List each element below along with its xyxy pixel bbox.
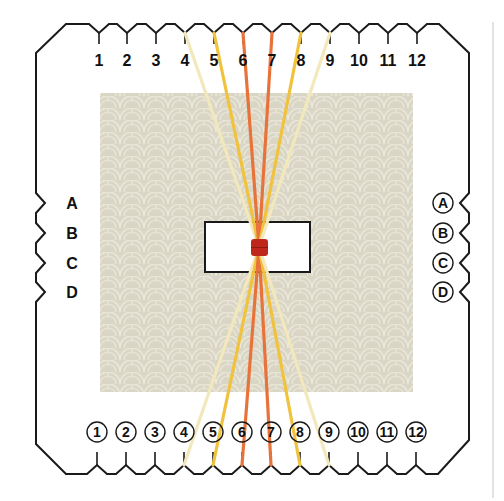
top-slot-label-7: 7	[268, 52, 277, 69]
bottom-slot-label-5: 5	[209, 424, 217, 440]
bottom-slot-label-3: 3	[151, 424, 159, 440]
right-slot-label-B: B	[438, 225, 448, 241]
bottom-slot-label-4: 4	[180, 424, 188, 440]
top-slot-label-4: 4	[181, 52, 190, 69]
right-slot-label-A: A	[438, 195, 448, 211]
top-slot-label-12: 12	[408, 52, 426, 69]
right-slot-label-C: C	[438, 255, 448, 271]
left-slot-label-D: D	[66, 284, 78, 301]
bottom-slot-label-1: 1	[93, 424, 101, 440]
right-slot-label-D: D	[438, 284, 448, 300]
center-knot	[251, 239, 268, 256]
top-slot-label-11: 11	[380, 52, 397, 69]
left-slot-label-A: A	[66, 195, 78, 212]
top-slot-label-5: 5	[210, 52, 219, 69]
left-slot-label-B: B	[66, 225, 78, 242]
bottom-slot-label-11: 11	[380, 424, 395, 440]
bottom-slot-label-7: 7	[267, 424, 275, 440]
bottom-slot-label-8: 8	[296, 424, 304, 440]
top-slot-label-3: 3	[152, 52, 161, 69]
bottom-slot-label-10: 10	[350, 424, 366, 440]
top-slot-label-1: 1	[95, 52, 104, 69]
bottom-slot-label-12: 12	[408, 424, 424, 440]
bottom-slot-label-6: 6	[238, 424, 246, 440]
left-slot-label-C: C	[66, 255, 78, 272]
top-slot-label-6: 6	[239, 52, 248, 69]
kumihimo-plate-diagram: 123456789101112123456789101112ABCDABCD	[0, 0, 504, 501]
top-slot-label-9: 9	[326, 52, 335, 69]
bottom-slot-label-2: 2	[122, 424, 130, 440]
top-slot-label-2: 2	[123, 52, 132, 69]
top-slot-label-10: 10	[350, 52, 368, 69]
bottom-slot-label-9: 9	[325, 424, 333, 440]
top-slot-label-8: 8	[297, 52, 306, 69]
